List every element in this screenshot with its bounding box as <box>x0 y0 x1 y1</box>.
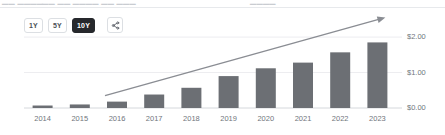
x-axis-tick-label: 2019 <box>220 114 237 123</box>
x-axis-tick-label: 2020 <box>257 114 274 123</box>
bar[interactable] <box>330 52 350 108</box>
x-axis-tick-label: 2017 <box>146 114 163 123</box>
bar[interactable] <box>219 76 239 108</box>
bar[interactable] <box>70 104 90 108</box>
bar[interactable] <box>256 68 276 108</box>
x-axis-tick-label: 2015 <box>71 114 88 123</box>
y-axis-tick-label: $1.00 <box>407 68 426 77</box>
y-axis-tick-label: $2.00 <box>407 32 426 41</box>
bar[interactable] <box>144 95 164 108</box>
y-axis-tick-label: $0.00 <box>407 103 426 112</box>
x-axis-tick-label: 2014 <box>34 114 51 123</box>
bar[interactable] <box>107 102 127 108</box>
x-axis-tick-label: 2022 <box>332 114 349 123</box>
bar-chart: $0.00$1.00$2.002014201520162017201820192… <box>0 0 445 135</box>
x-axis-tick-label: 2023 <box>369 114 386 123</box>
bar[interactable] <box>293 63 313 108</box>
x-axis-tick-label: 2021 <box>295 114 312 123</box>
bar[interactable] <box>33 106 53 108</box>
x-axis-tick-label: 2016 <box>109 114 126 123</box>
bar[interactable] <box>367 42 387 108</box>
x-axis-tick-label: 2018 <box>183 114 200 123</box>
bar[interactable] <box>181 88 201 108</box>
